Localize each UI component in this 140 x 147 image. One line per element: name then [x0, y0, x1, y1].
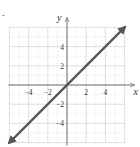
x-tick-label: 4	[104, 88, 108, 97]
y-tick-label: 2	[60, 62, 64, 71]
coordinate-plane: . xy −4−224−4−224	[0, 0, 140, 147]
x-tick-label: −4	[25, 88, 33, 97]
x-tick-label: −2	[44, 88, 52, 97]
x-axis-label: x	[133, 86, 139, 97]
y-axis-label: y	[56, 12, 62, 23]
y-tick-label: 4	[60, 43, 64, 52]
y-tick-label: −4	[56, 119, 64, 128]
x-tick-label: 2	[84, 88, 88, 97]
problem-marker: .	[2, 7, 5, 18]
y-tick-label: −2	[56, 100, 64, 109]
